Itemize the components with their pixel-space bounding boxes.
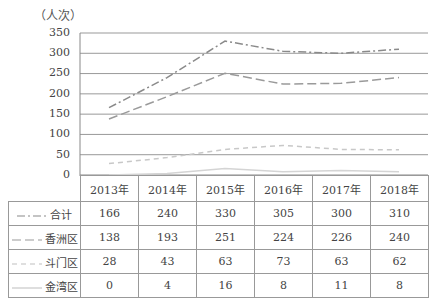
header-year: 2016年 <box>255 176 313 202</box>
header-year: 2014年 <box>139 176 197 202</box>
gridlines <box>80 33 428 175</box>
legend-cell-jinwan: 金湾区 <box>9 274 81 298</box>
table-cell: 63 <box>197 250 255 274</box>
legend-cell-xiangzhou: 香洲区 <box>9 226 81 250</box>
series-line <box>109 41 399 108</box>
series-label: 斗门区 <box>45 257 78 270</box>
table-cell: 63 <box>313 250 371 274</box>
legend-cell-doumen: 斗门区 <box>9 250 81 274</box>
header-year: 2017年 <box>313 176 371 202</box>
table-cell: 240 <box>139 202 197 226</box>
series-label: 香洲区 <box>45 233 78 246</box>
table-cell: 28 <box>81 250 139 274</box>
table-cell: 43 <box>139 250 197 274</box>
table-cell: 251 <box>197 226 255 250</box>
table-cell: 16 <box>197 274 255 298</box>
table-cell: 138 <box>81 226 139 250</box>
table-cell: 0 <box>81 274 139 298</box>
header-year: 2015年 <box>197 176 255 202</box>
table-cell: 193 <box>139 226 197 250</box>
table-header-row: 2013年 2014年 2015年 2016年 2017年 2018年 <box>9 176 429 202</box>
table-cell: 305 <box>255 202 313 226</box>
table-cell: 226 <box>313 226 371 250</box>
table-corner <box>9 176 81 202</box>
table-cell: 73 <box>255 250 313 274</box>
legend-line-longdash-icon <box>12 237 42 243</box>
table-row: 合计 166 240 330 305 300 310 <box>9 202 429 226</box>
series-line <box>109 73 399 119</box>
line-chart-plot <box>0 0 435 180</box>
table-row: 香洲区 138 193 251 224 226 240 <box>9 226 429 250</box>
table-row: 金湾区 0 4 16 8 11 8 <box>9 274 429 298</box>
table-cell: 224 <box>255 226 313 250</box>
legend-cell-total: 合计 <box>9 202 81 226</box>
table-cell: 240 <box>371 226 429 250</box>
legend-line-solid-icon <box>12 285 42 291</box>
table-cell: 166 <box>81 202 139 226</box>
series-label: 合计 <box>50 209 72 222</box>
legend-line-dash-icon <box>12 261 42 267</box>
table-cell: 62 <box>371 250 429 274</box>
header-year: 2013年 <box>81 176 139 202</box>
legend-line-dashdot-icon <box>17 213 47 219</box>
series-label: 金湾区 <box>45 281 78 294</box>
header-year: 2018年 <box>371 176 429 202</box>
table-row: 斗门区 28 43 63 73 63 62 <box>9 250 429 274</box>
table-cell: 8 <box>255 274 313 298</box>
table-cell: 4 <box>139 274 197 298</box>
data-table: 2013年 2014年 2015年 2016年 2017年 2018年 合计 1… <box>8 175 429 298</box>
table-cell: 8 <box>371 274 429 298</box>
table-cell: 330 <box>197 202 255 226</box>
table-cell: 11 <box>313 274 371 298</box>
table-cell: 310 <box>371 202 429 226</box>
table-cell: 300 <box>313 202 371 226</box>
